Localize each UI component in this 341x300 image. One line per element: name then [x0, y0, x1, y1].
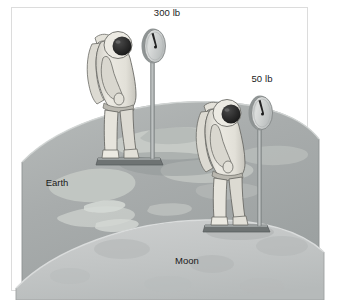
boot-right — [124, 149, 139, 158]
crater — [50, 268, 90, 284]
crater — [240, 278, 284, 294]
boot-right — [233, 216, 248, 225]
earth-label: Earth — [46, 177, 69, 188]
boot-left — [211, 217, 228, 225]
glove — [114, 93, 124, 105]
visor-glint — [115, 40, 120, 44]
dial-needle-pivot — [154, 46, 157, 49]
visor-glint — [224, 108, 229, 112]
helmet-visor — [113, 37, 132, 56]
moon-scale-reading-label: 50 lb — [251, 73, 272, 84]
crater — [94, 239, 150, 259]
boot-left — [102, 150, 119, 158]
helmet-visor — [222, 105, 241, 124]
crater — [144, 276, 192, 292]
moon-label: Moon — [175, 255, 199, 266]
suit-leg-left — [104, 110, 118, 152]
crater — [256, 236, 308, 256]
scale-post — [151, 62, 155, 159]
scale-post — [258, 129, 262, 226]
earth-scale-reading-label: 300 lb — [154, 7, 180, 18]
glove — [223, 161, 233, 173]
weight-comparison-illustration: 300 lb — [0, 0, 341, 300]
dial-needle-pivot — [261, 113, 264, 116]
suit-leg-left — [213, 178, 227, 219]
illustration-canvas: 300 lb — [0, 0, 341, 300]
